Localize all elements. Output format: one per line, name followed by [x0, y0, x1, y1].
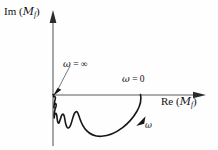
imaginary-axis-arrowhead-icon	[50, 10, 57, 23]
omega-infinity-leader-line	[57, 66, 70, 91]
nyquist-locus-curve	[53, 95, 141, 137]
omega-zero-value: 0	[140, 74, 145, 84]
omega-zero-annotation: ω = 0	[122, 74, 145, 85]
real-axis-label-suffix: )	[193, 95, 197, 107]
omega-zero-relation: =	[132, 74, 137, 84]
imaginary-axis-label-symbol: M	[23, 5, 34, 18]
omega-infinity-relation: =	[73, 59, 78, 69]
omega-infinity-leader	[53, 66, 70, 96]
omega-infinity-annotation: ω = ∞	[63, 59, 88, 70]
omega-infinity-value: ∞	[81, 59, 88, 69]
omega-infinity-symbol: ω	[63, 58, 71, 69]
imaginary-axis	[50, 10, 57, 146]
imaginary-axis-label: Im (Mf)	[4, 6, 40, 19]
real-axis-label-symbol: M	[180, 95, 191, 108]
plot-canvas	[0, 0, 218, 150]
real-axis-label-prefix: Re (	[161, 95, 180, 107]
imaginary-axis-label-suffix: )	[36, 5, 40, 17]
omega-zero-symbol: ω	[122, 73, 130, 84]
complex-plane-figure: Im (Mf) Re (Mf) ω = ∞ ω = 0 ω	[0, 0, 218, 150]
real-axis-label: Re (Mf)	[161, 96, 197, 109]
omega-direction-symbol: ω	[145, 120, 152, 130]
omega-direction-annotation: ω	[145, 121, 152, 130]
imaginary-axis-label-prefix: Im (	[4, 5, 23, 17]
